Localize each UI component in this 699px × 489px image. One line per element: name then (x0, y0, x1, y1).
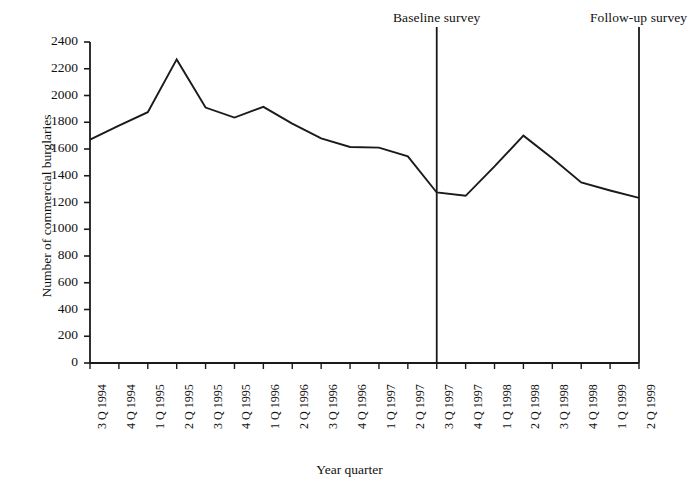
followup-survey-annotation-label: Follow-up survey (590, 10, 687, 26)
x-axis-tick-label: 1 Q 1995 (153, 384, 168, 429)
x-axis-tick-label: 3 Q 1998 (557, 384, 572, 429)
burglaries-data-line (90, 59, 639, 197)
x-axis-tick-label: 4 Q 1998 (586, 384, 601, 429)
chart-figure: Baseline survey Follow-up survey Number … (0, 0, 699, 489)
axes (90, 42, 639, 363)
x-axis-tick-label: 3 Q 1994 (95, 384, 110, 429)
y-axis-tick-label: 1600 (26, 140, 78, 156)
x-axis-tick-label: 2 Q 1999 (644, 384, 659, 429)
x-axis-tick-label: 4 Q 1995 (239, 384, 254, 429)
y-axis-tick-label: 0 (26, 354, 78, 370)
x-axis-tick-label: 4 Q 1994 (124, 384, 139, 429)
x-axis-tick-label: 3 Q 1995 (211, 384, 226, 429)
x-axis-tick-label: 4 Q 1997 (471, 384, 486, 429)
y-axis-tick-label: 1400 (26, 167, 78, 183)
y-axis-tick-label: 600 (26, 274, 78, 290)
y-axis-tick-label: 200 (26, 327, 78, 343)
x-axis-tick-label: 2 Q 1995 (182, 384, 197, 429)
x-axis-title: Year quarter (0, 462, 699, 478)
x-axis-tick-label: 3 Q 1996 (326, 384, 341, 429)
x-axis-tick-label: 4 Q 1996 (355, 384, 370, 429)
baseline-survey-annotation-label: Baseline survey (393, 10, 480, 26)
x-axis-tick-label: 1 Q 1996 (268, 384, 283, 429)
x-axis-tick-label: 2 Q 1998 (528, 384, 543, 429)
x-axis-tick-label: 1 Q 1999 (615, 384, 630, 429)
x-axis-tick-label: 2 Q 1997 (413, 384, 428, 429)
y-axis-tick-label: 400 (26, 301, 78, 317)
x-axis-tick-label: 1 Q 1998 (500, 384, 515, 429)
y-axis-tick-label: 1800 (26, 113, 78, 129)
x-axis-tick-label: 1 Q 1997 (384, 384, 399, 429)
y-axis-tick-label: 1200 (26, 194, 78, 210)
y-axis-tick-label: 1000 (26, 220, 78, 236)
y-axis-tick-label: 800 (26, 247, 78, 263)
x-axis-tick-label: 2 Q 1996 (297, 384, 312, 429)
y-axis-tick-label: 2200 (26, 60, 78, 76)
y-axis-tick-label: 2000 (26, 87, 78, 103)
y-axis-tick-label: 2400 (26, 33, 78, 49)
x-axis-tick-label: 3 Q 1997 (442, 384, 457, 429)
